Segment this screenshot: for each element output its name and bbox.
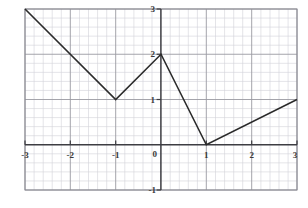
xtick-label-1: 1 — [204, 150, 209, 160]
origin-label: 0 — [153, 149, 158, 159]
ytick-label-3: 3 — [151, 4, 156, 14]
ytick-label-1: 1 — [151, 95, 156, 105]
ytick-label--1: -1 — [149, 185, 157, 195]
xtick-label--3: -3 — [21, 150, 29, 160]
xtick-label-2: 2 — [249, 150, 254, 160]
xtick-label-3: 3 — [293, 150, 298, 160]
ytick-label-2: 2 — [151, 49, 156, 59]
xtick-label--1: -1 — [112, 150, 120, 160]
xtick-label--2: -2 — [67, 150, 75, 160]
graph-figure: -3 -2 -1 1 2 3 3 2 1 -1 0 — [0, 0, 308, 208]
coordinate-plane-svg: -3 -2 -1 1 2 3 3 2 1 -1 0 — [0, 0, 308, 208]
